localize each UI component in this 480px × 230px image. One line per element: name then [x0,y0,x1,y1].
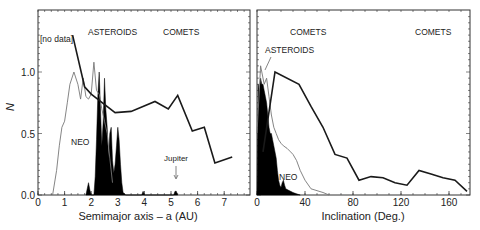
x-tick-label: 0 [35,197,41,208]
x-tick-label: 6 [195,197,201,208]
comets-label-1: COMETS [290,27,327,37]
neo-label-right: NEO [279,172,298,182]
asteroids-arrow-icon [265,57,271,70]
x-tick-label: 2 [88,197,94,208]
y-tick-label: 1.0 [21,67,35,78]
y-tick-label: 0.0 [21,190,35,201]
x-tick-label: 40 [299,197,311,208]
x-tick-label: 1 [62,197,68,208]
x-tick-label: 3 [115,197,121,208]
jupiter-label: Jupiter [164,154,188,163]
x-tick-label: 4 [142,197,148,208]
x-tick-label: 120 [393,197,410,208]
x-tick-label: 80 [347,197,359,208]
y-tick-label: 0.5 [21,129,35,140]
y-axis-label: N [4,103,16,111]
x-tick-label: 160 [441,197,458,208]
figure: 012345670.00.51.0 [no data] ASTEROIDS CO… [0,0,480,230]
right-x-axis-label: Inclination (Deg.) [321,210,404,222]
left-x-axis-label: Semimajor axis – a (AU) [78,210,197,222]
asteroids-label: ASTEROIDS [88,27,137,37]
right-panel-inclination: 04080120160 COMETS COMETS ASTEROIDS NEO … [254,10,470,222]
right-plot-frame [257,10,470,195]
x-tick-label: 0 [254,197,260,208]
comets-label: COMETS [163,27,200,37]
no-data-label: [no data] [40,34,73,44]
left-panel-semimajor-axis: 012345670.00.51.0 [no data] ASTEROIDS CO… [4,10,250,222]
left-asteroid-histogram [86,72,178,195]
x-tick-label: 7 [221,197,227,208]
neo-label: NEO [71,137,90,147]
comets-label-2: COMETS [415,27,452,37]
asteroids-label-right: ASTEROIDS [265,45,314,55]
x-tick-label: 5 [168,197,174,208]
